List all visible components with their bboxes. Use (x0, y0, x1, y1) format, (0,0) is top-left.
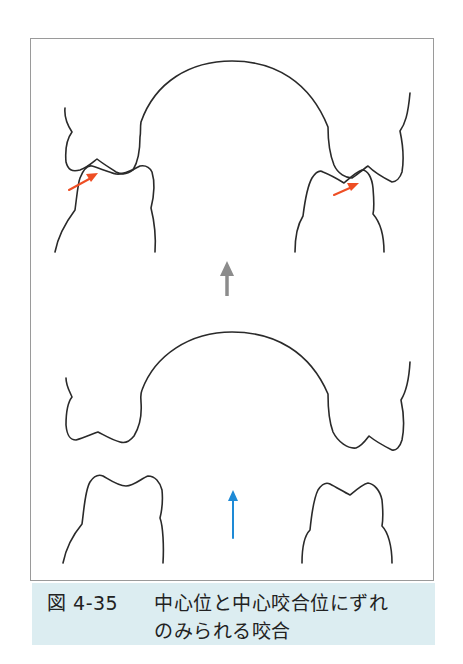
top-lower-teeth (55, 166, 384, 252)
bottom-upper-teeth (66, 332, 410, 450)
blue-up-arrow-icon (228, 490, 238, 538)
gray-up-arrow-icon (220, 261, 234, 296)
contact-arrow-left-icon (69, 173, 98, 190)
figure-caption: 図 4-35 中心位と中心咬合位にずれ のみられる咬合 (32, 583, 435, 645)
tooth-occlusion-diagram (0, 0, 463, 664)
bottom-lower-teeth (63, 475, 392, 563)
caption-line-2: のみられる咬合 (154, 616, 291, 643)
figure-number: 図 4-35 (47, 588, 118, 615)
top-upper-teeth (65, 61, 410, 182)
caption-line-1: 中心位と中心咬合位にずれ (154, 588, 388, 615)
contact-arrow-right-icon (334, 183, 359, 195)
